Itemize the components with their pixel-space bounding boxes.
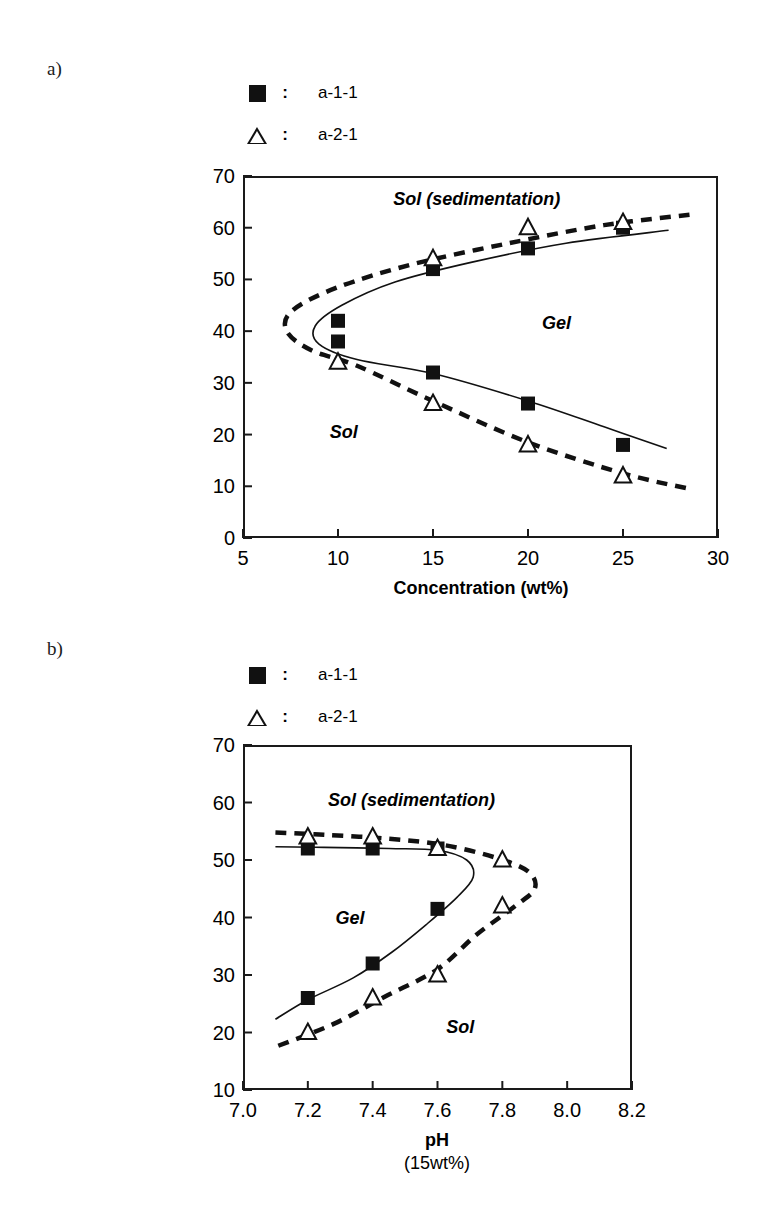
- x-axis-tick-label: 7.2: [294, 1099, 322, 1122]
- x-axis-tick-label: 30: [707, 547, 729, 570]
- filled-square-icon: [240, 85, 274, 102]
- x-axis-tick-label: 7.6: [424, 1099, 452, 1122]
- y-axis-tick-label: 70: [191, 165, 235, 188]
- y-axis-tick-label: 0: [191, 527, 235, 550]
- legend-panel-b: : a-1-1 : a-2-1: [240, 660, 358, 732]
- legend-separator: :: [274, 707, 296, 727]
- y-axis-tick-label: 20: [191, 1021, 235, 1044]
- region-label: Gel: [335, 907, 364, 928]
- open-triangle-icon: [240, 127, 274, 144]
- x-axis-subtitle: (15wt%): [404, 1153, 470, 1174]
- legend-separator: :: [274, 83, 296, 103]
- region-label: Gel: [542, 313, 571, 334]
- region-label: Sol (sedimentation): [393, 189, 560, 210]
- data-point-triangle: [494, 897, 511, 912]
- region-label: Sol: [446, 1016, 474, 1037]
- legend-separator: :: [274, 125, 296, 145]
- x-axis-tick-label: 8.2: [618, 1099, 646, 1122]
- data-point-square: [301, 991, 315, 1005]
- x-axis-tick-label: 25: [612, 547, 634, 570]
- x-axis-tick-label: 15: [422, 547, 444, 570]
- data-point-triangle: [364, 989, 381, 1004]
- data-point-square: [331, 334, 345, 348]
- x-axis-title: Concentration (wt%): [394, 578, 569, 599]
- y-axis-tick-label: 30: [191, 964, 235, 987]
- chart-panel-b: 102030405060707.07.27.47.67.88.08.2pH(15…: [243, 745, 632, 1090]
- open-triangle-icon: [240, 709, 274, 726]
- x-axis-tick-label: 10: [327, 547, 349, 570]
- legend-separator: :: [274, 665, 296, 685]
- x-axis-tick-label: 20: [517, 547, 539, 570]
- panel-label-b: b): [47, 638, 63, 660]
- legend-label: a-1-1: [296, 83, 358, 103]
- y-axis-tick-label: 70: [191, 734, 235, 757]
- legend-label: a-1-1: [296, 665, 358, 685]
- x-axis-title: pH: [425, 1130, 449, 1151]
- data-point-square: [521, 397, 535, 411]
- y-axis-tick-label: 20: [191, 423, 235, 446]
- x-axis-tick-label: 8.0: [553, 1099, 581, 1122]
- data-point-square: [431, 902, 445, 916]
- legend-row: : a-2-1: [240, 120, 358, 150]
- y-axis-tick-label: 50: [191, 849, 235, 872]
- y-axis-tick-label: 40: [191, 320, 235, 343]
- data-point-triangle: [520, 219, 537, 234]
- legend-row: : a-1-1: [240, 78, 358, 108]
- data-point-triangle: [429, 966, 446, 981]
- region-label: Sol (sedimentation): [328, 789, 495, 810]
- x-axis-tick-label: 7.8: [488, 1099, 516, 1122]
- y-axis-tick-label: 50: [191, 268, 235, 291]
- y-axis-tick-label: 60: [191, 216, 235, 239]
- y-axis-tick-label: 10: [191, 475, 235, 498]
- x-axis-tick-label: 5: [237, 547, 248, 570]
- x-axis-tick-label: 7.0: [229, 1099, 257, 1122]
- panel-label-a: a): [47, 58, 62, 80]
- x-axis-tick-label: 7.4: [359, 1099, 387, 1122]
- legend-row: : a-2-1: [240, 702, 358, 732]
- y-axis-tick-label: 60: [191, 791, 235, 814]
- plot-canvas: [243, 176, 718, 538]
- legend-row: : a-1-1: [240, 660, 358, 690]
- data-point-square: [331, 314, 345, 328]
- data-point-triangle: [494, 851, 511, 866]
- data-point-square: [366, 957, 380, 971]
- legend-panel-a: : a-1-1 : a-2-1: [240, 78, 358, 150]
- legend-label: a-2-1: [296, 125, 358, 145]
- region-label: Sol: [330, 421, 358, 442]
- data-point-square: [616, 438, 630, 452]
- data-point-square: [521, 241, 535, 255]
- data-point-square: [426, 366, 440, 380]
- y-axis-tick-label: 40: [191, 906, 235, 929]
- legend-label: a-2-1: [296, 707, 358, 727]
- filled-square-icon: [240, 667, 274, 684]
- chart-panel-a: 01020304050607051015202530Concentration …: [243, 176, 718, 538]
- y-axis-tick-label: 30: [191, 371, 235, 394]
